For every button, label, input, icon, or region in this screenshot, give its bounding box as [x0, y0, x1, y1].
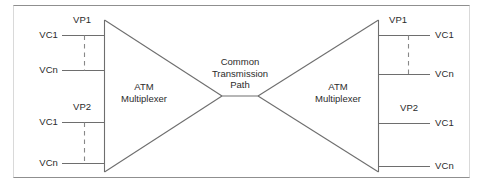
left-vp2-channel-n-label: VCn [20, 157, 58, 168]
left-vp1-channel-1-label: VC1 [20, 29, 58, 40]
common-transmission-path-label: Common Transmission Path [196, 56, 284, 91]
right-vp1-channel-1-label: VC1 [435, 29, 454, 40]
left-vp1-channel-lines [62, 36, 105, 71]
common-transmission-path-line1: Common [196, 56, 284, 68]
left-vp1-channel-n-label: VCn [20, 64, 58, 75]
left-multiplexer-label: ATM Multiplexer [108, 81, 180, 104]
diagram-canvas [0, 0, 480, 193]
left-vp2-channel-lines [62, 123, 105, 164]
right-vp2-channel-lines [379, 124, 431, 167]
right-multiplexer-label: ATM Multiplexer [302, 81, 374, 104]
left-vp1-label: VP1 [73, 14, 91, 25]
left-vp2-channel-1-label: VC1 [20, 116, 58, 127]
common-transmission-path-line3: Path [196, 79, 284, 91]
right-multiplexer-label-line1: ATM [302, 81, 374, 93]
right-vp2-channel-1-label: VC1 [435, 117, 454, 128]
right-vp1-channel-lines [379, 36, 431, 75]
right-vp1-label: VP1 [389, 14, 407, 25]
left-multiplexer-label-line1: ATM [108, 81, 180, 93]
right-multiplexer-label-line2: Multiplexer [302, 93, 374, 105]
common-transmission-path-line2: Transmission [196, 68, 284, 80]
left-vp2-label: VP2 [73, 101, 91, 112]
right-vp2-channel-n-label: VCn [435, 160, 454, 171]
atm-multiplexer-diagram: VP1 VC1 VCn VP2 VC1 VCn VP1 VC1 VCn VP2 … [0, 0, 480, 193]
left-multiplexer-label-line2: Multiplexer [108, 93, 180, 105]
right-vp2-label: VP2 [400, 102, 418, 113]
right-vp1-channel-n-label: VCn [435, 68, 454, 79]
